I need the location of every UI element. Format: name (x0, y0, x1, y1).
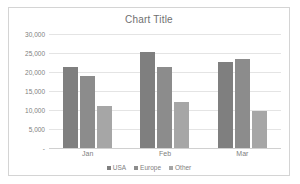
x-axis: JanFebMar (49, 150, 281, 164)
legend-label: USA (113, 164, 126, 171)
bar-other-mar[interactable] (252, 111, 267, 148)
legend-swatch-icon (134, 166, 138, 170)
chart-title[interactable]: Chart Title (9, 14, 289, 25)
bar-group (126, 34, 203, 148)
bar-usa-feb[interactable] (140, 52, 155, 148)
legend-swatch-icon (169, 166, 173, 170)
bar-group (49, 34, 126, 148)
bar-other-feb[interactable] (174, 102, 189, 148)
legend-item-europe[interactable]: Europe (134, 164, 161, 171)
legend-swatch-icon (107, 166, 111, 170)
bar-group (204, 34, 281, 148)
y-axis-tick-label: - (13, 145, 45, 152)
y-axis-tick-label: 25,000 (13, 50, 45, 57)
legend-item-other[interactable]: Other (169, 164, 191, 171)
x-axis-tick-label: Feb (159, 150, 171, 157)
bar-europe-jan[interactable] (80, 76, 95, 148)
y-axis-tick-label: 20,000 (13, 69, 45, 76)
bar-usa-jan[interactable] (63, 67, 78, 148)
gridline (49, 148, 281, 149)
x-axis-tick-label: Jan (82, 150, 93, 157)
bar-europe-mar[interactable] (235, 59, 250, 148)
y-axis-tick-label: 5,000 (13, 126, 45, 133)
plot-area (49, 34, 281, 148)
legend-label: Other (175, 164, 191, 171)
bar-europe-feb[interactable] (157, 67, 172, 148)
y-axis-tick-label: 15,000 (13, 88, 45, 95)
bar-other-jan[interactable] (97, 106, 112, 148)
y-axis-tick-label: 10,000 (13, 107, 45, 114)
x-axis-tick-label: Mar (236, 150, 248, 157)
chart-legend[interactable]: USAEuropeOther (9, 164, 289, 171)
y-axis-tick-label: 30,000 (13, 31, 45, 38)
legend-label: Europe (140, 164, 161, 171)
chart-container: Chart Title -5,00010,00015,00020,00025,0… (8, 7, 290, 176)
y-axis: -5,00010,00015,00020,00025,00030,000 (11, 34, 45, 148)
legend-item-usa[interactable]: USA (107, 164, 126, 171)
bar-usa-mar[interactable] (218, 62, 233, 148)
